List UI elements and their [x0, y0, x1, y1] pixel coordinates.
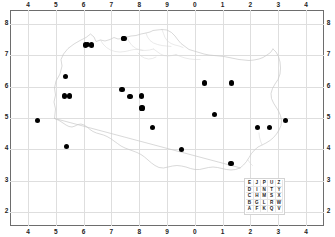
legend-letter-cell: Q	[268, 206, 275, 213]
occurrence-dot	[139, 105, 144, 110]
legend-letter-cell: T	[268, 187, 275, 194]
occurrence-dot	[283, 118, 288, 123]
axis-tick-label-top: 6	[79, 2, 89, 9]
axis-tick-label-top: 5	[51, 2, 61, 9]
distribution-map-figure: EJPUZDINTYCHMSXBGLRWAFKQV 45678901234 45…	[0, 0, 335, 237]
axis-tick-label-left: 5	[2, 114, 11, 122]
legend-letter-cell: V	[276, 206, 283, 213]
axis-tick-label-top: 1	[218, 2, 228, 9]
axis-tick-label-bottom: 5	[51, 229, 61, 236]
axis-tick-label-top: 3	[273, 2, 283, 9]
axis-tick-label-top: 7	[106, 2, 116, 9]
legend-letter-cell: M	[261, 193, 268, 200]
occurrence-dot	[179, 147, 184, 152]
legend-letter-cell: P	[261, 180, 268, 187]
legend-letter-cell: S	[268, 193, 275, 200]
axis-tick-label-left: 6	[2, 83, 11, 91]
axis-tick-label-left: 4	[2, 145, 11, 153]
axis-tick-label-left: 2	[2, 208, 11, 216]
axis-tick-label-left: 3	[2, 177, 11, 185]
mgrs-letter-grid-legend: EJPUZDINTYCHMSXBGLRWAFKQV	[244, 178, 285, 215]
axis-tick-label-right: 4	[324, 145, 333, 153]
occurrence-dot	[35, 118, 40, 123]
occurrence-dot	[127, 94, 132, 99]
legend-letter-cell: D	[246, 187, 253, 194]
axis-tick-label-bottom: 1	[218, 229, 228, 236]
occurrence-dot	[202, 80, 207, 85]
axis-tick-label-right: 7	[324, 51, 333, 59]
occurrence-dot	[228, 161, 233, 166]
axis-tick-label-right: 5	[324, 114, 333, 122]
axis-tick-label-right: 8	[324, 20, 333, 28]
legend-letter-cell: U	[268, 180, 275, 187]
legend-letter-cell: R	[268, 200, 275, 207]
occurrence-dot	[139, 93, 144, 98]
axis-tick-label-left: 7	[2, 51, 11, 59]
axis-tick-label-bottom: 6	[79, 229, 89, 236]
legend-letter-cell: F	[254, 206, 261, 213]
legend-letter-cell: B	[246, 200, 253, 207]
legend-letter-cell: J	[254, 180, 261, 187]
legend-letter-cell: H	[254, 193, 261, 200]
axis-tick-label-top: 4	[23, 2, 33, 9]
axis-tick-label-top: 4	[301, 2, 311, 9]
plot-area: EJPUZDINTYCHMSXBGLRWAFKQV	[10, 10, 324, 226]
occurrence-dot	[150, 125, 155, 130]
legend-letter-cell: Y	[276, 187, 283, 194]
axis-tick-label-bottom: 8	[134, 229, 144, 236]
legend-letter-cell: L	[261, 200, 268, 207]
axis-tick-label-bottom: 3	[273, 229, 283, 236]
legend-letter-cell: X	[276, 193, 283, 200]
axis-tick-label-top: 2	[245, 2, 255, 9]
legend-letter-cell: A	[246, 206, 253, 213]
axis-tick-label-left: 8	[2, 20, 11, 28]
axis-tick-label-bottom: 2	[245, 229, 255, 236]
axis-tick-label-bottom: 0	[190, 229, 200, 236]
axis-tick-label-right: 6	[324, 83, 333, 91]
axis-tick-label-bottom: 4	[301, 229, 311, 236]
axis-tick-label-right: 2	[324, 208, 333, 216]
axis-tick-label-bottom: 9	[162, 229, 172, 236]
legend-letter-cell: W	[276, 200, 283, 207]
legend-letter-cell: Z	[276, 180, 283, 187]
occurrence-dot	[119, 87, 124, 92]
axis-tick-label-top: 8	[134, 2, 144, 9]
occurrence-dot	[67, 93, 72, 98]
axis-tick-label-right: 3	[324, 177, 333, 185]
legend-letter-cell: E	[246, 180, 253, 187]
axis-tick-label-top: 0	[190, 2, 200, 9]
axis-tick-label-bottom: 7	[106, 229, 116, 236]
legend-letter-cell: N	[261, 187, 268, 194]
axis-tick-label-bottom: 4	[23, 229, 33, 236]
legend-letter-cell: I	[254, 187, 261, 194]
legend-letter-cell: G	[254, 200, 261, 207]
legend-letter-cell: C	[246, 193, 253, 200]
legend-letter-cell: K	[261, 206, 268, 213]
axis-tick-label-top: 9	[162, 2, 172, 9]
occurrence-dot	[229, 80, 234, 85]
